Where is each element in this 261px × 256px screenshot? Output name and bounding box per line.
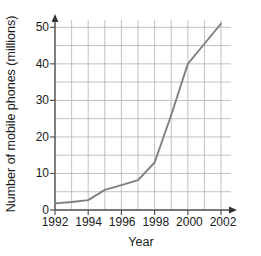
y-axis-title: Number of mobile phones (millions): [4, 16, 18, 213]
x-axis-title: Year: [128, 235, 153, 249]
x-tick-label: 1996: [109, 215, 136, 229]
x-axis-arrow-icon: [229, 207, 237, 214]
y-axis-ticks: [50, 27, 55, 210]
y-tick-label: 30: [36, 93, 50, 107]
line-chart: 0 10 20 30 40 50 1992 1994 1996 1998 200…: [0, 0, 261, 256]
y-axis-arrow-icon: [52, 14, 59, 22]
x-tick-label: 2002: [210, 215, 237, 229]
chart-canvas: 0 10 20 30 40 50 1992 1994 1996 1998 200…: [0, 0, 261, 256]
y-axis-tick-labels: 0 10 20 30 40 50: [36, 20, 50, 217]
y-tick-label: 50: [36, 20, 50, 34]
x-tick-label: 1994: [75, 215, 102, 229]
vertical-gridlines: [55, 20, 221, 210]
x-axis-tick-labels: 1992 1994 1996 1998 2000 2002: [42, 215, 237, 229]
y-tick-label: 40: [36, 57, 50, 71]
y-tick-label: 20: [36, 130, 50, 144]
x-tick-label: 1992: [42, 215, 69, 229]
x-tick-label: 2000: [176, 215, 203, 229]
axis-lines: [52, 14, 237, 213]
y-tick-label: 10: [36, 166, 50, 180]
x-tick-label: 1998: [142, 215, 169, 229]
